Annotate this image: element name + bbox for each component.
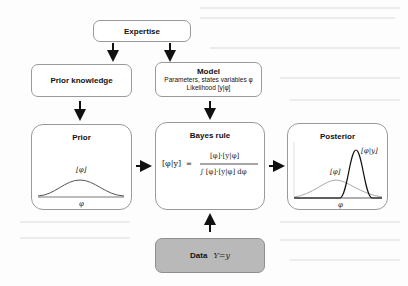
posterior-prior-label: [φ]: [330, 168, 340, 176]
bayes-numerator: [φ]·[y|φ]: [210, 152, 239, 160]
model-likelihood-text: Likelihood [y|φ]: [187, 84, 231, 92]
expertise-box: Expertise: [93, 20, 191, 42]
prior-knowledge-label: Prior knowledge: [50, 76, 112, 85]
posterior-title: Posterior: [288, 132, 387, 141]
data-expression: Y=y: [213, 251, 230, 260]
prior-title: Prior: [32, 133, 131, 142]
prior-axis-label: φ: [79, 200, 84, 208]
model-parameters-text: Parameters, states variables φ: [164, 76, 252, 84]
posterior-box: Posterior: [287, 123, 388, 210]
data-label: Data: [190, 251, 207, 260]
model-box: Model Parameters, states variables φ Lik…: [155, 62, 262, 97]
data-box: Data Y=y: [155, 238, 265, 273]
bayes-lhs: [φ|y]: [162, 159, 181, 168]
bayes-equals: =: [186, 160, 192, 168]
posterior-label: [φ|y]: [361, 147, 378, 155]
bayes-denominator: ∫ [φ]·[y|φ] dφ: [200, 168, 247, 176]
posterior-axis-label: φ: [338, 201, 343, 209]
expertise-label: Expertise: [124, 27, 160, 36]
model-title: Model: [197, 67, 220, 76]
prior-curve-label: [φ]: [76, 166, 86, 174]
prior-knowledge-box: Prior knowledge: [31, 64, 132, 97]
bayes-rule-title: Bayes rule: [156, 131, 264, 140]
